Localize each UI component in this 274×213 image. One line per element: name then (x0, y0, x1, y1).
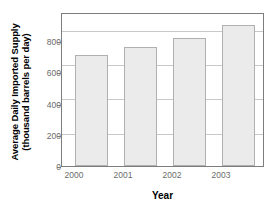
x-axis-title: Year (61, 190, 264, 202)
y-tick-400: 400 (0, 101, 61, 110)
bar-2002 (173, 38, 206, 166)
bar-2000 (75, 55, 108, 166)
y-tick-800: 800 (0, 38, 61, 47)
y-axis-title: Average Daily Imported Supply (thousand … (0, 0, 40, 185)
bar-chart-figure: Average Daily Imported Supply (thousand … (0, 0, 274, 213)
y-tick-200: 200 (0, 132, 61, 141)
y-tick-label: 400 (9, 101, 61, 110)
y-tick-label: 800 (9, 38, 61, 47)
x-tick-label-2002: 2002 (150, 171, 194, 180)
y-tick-label: 600 (9, 69, 61, 78)
x-tick-label-2001: 2001 (101, 171, 145, 180)
bar-2001 (124, 47, 157, 166)
y-tick-mark (57, 167, 61, 168)
y-tick-label: 200 (9, 132, 61, 141)
y-tick-600: 600 (0, 69, 61, 78)
x-tick-label-2003: 2003 (199, 171, 243, 180)
bar-2003 (222, 25, 255, 166)
plot-area (61, 13, 264, 167)
x-tick-label-2000: 2000 (52, 171, 96, 180)
